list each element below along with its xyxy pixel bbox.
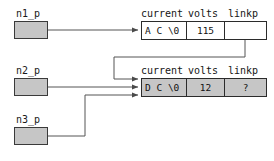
header-volts: volts [188,65,228,76]
node-a-cell-current: A C \0 [142,22,187,39]
diagram-canvas: n1_p n2_p n3_p current volts linkp A C \… [0,0,274,161]
pointer-box-n3p[interactable] [14,127,48,145]
pointer-box-n2p[interactable] [14,78,48,96]
node-a-field-headers: current volts linkp [141,8,268,19]
node-d-cell-linkp: ? [225,79,266,96]
node-d-cell-volts: 12 [187,79,225,96]
header-volts: volts [188,8,228,19]
header-current: current [141,65,188,76]
header-linkp: linkp [228,65,268,76]
node-a-record[interactable]: A C \0 115 [141,21,267,40]
pointer-label-n2p: n2_p [16,65,40,76]
pointer-box-n1p[interactable] [14,21,48,39]
header-current: current [141,8,188,19]
pointer-label-n3p: n3_p [16,114,40,125]
pointer-label-n1p: n1_p [16,8,40,19]
header-linkp: linkp [228,8,268,19]
node-a-cell-linkp [225,22,266,39]
node-d-cell-current: D C \0 [142,79,187,96]
node-a-cell-volts: 115 [187,22,225,39]
node-d-field-headers: current volts linkp [141,65,268,76]
node-d-record[interactable]: D C \0 12 ? [141,78,267,97]
